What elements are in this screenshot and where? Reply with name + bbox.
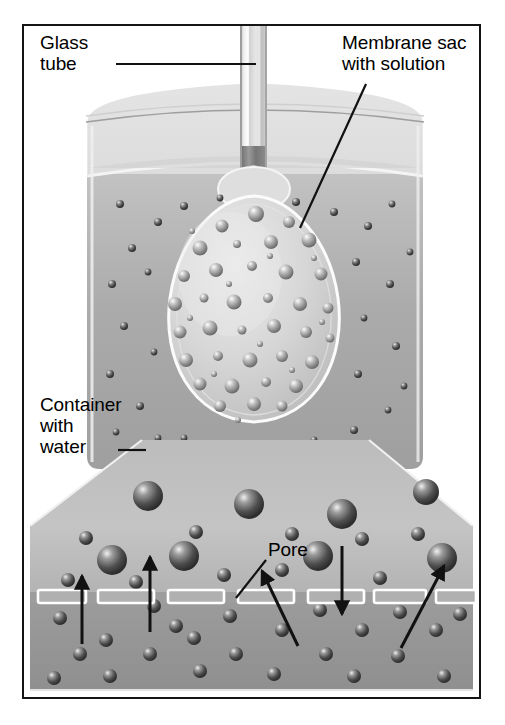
glass-tube-right-edge xyxy=(265,26,267,188)
osmosis-figure: Glass tube Membrane sac with solution Co… xyxy=(0,0,505,725)
pore-slot xyxy=(98,590,154,603)
inset-bottom-edge xyxy=(30,689,473,693)
membrane-pores xyxy=(38,590,476,603)
diagram-canvas xyxy=(24,26,479,697)
pore-slot xyxy=(436,590,476,603)
glass-tube xyxy=(240,26,267,188)
membrane-detail-inset xyxy=(30,526,473,693)
pore-slot xyxy=(308,590,364,603)
pore-slot xyxy=(238,590,294,603)
glass-tube-left-edge xyxy=(240,26,242,188)
figure-frame: Glass tube Membrane sac with solution Co… xyxy=(22,24,481,699)
pore-slot xyxy=(168,590,224,603)
inset-upper-region xyxy=(30,526,473,597)
pore-slot xyxy=(38,590,86,603)
pore-slot xyxy=(374,590,426,603)
